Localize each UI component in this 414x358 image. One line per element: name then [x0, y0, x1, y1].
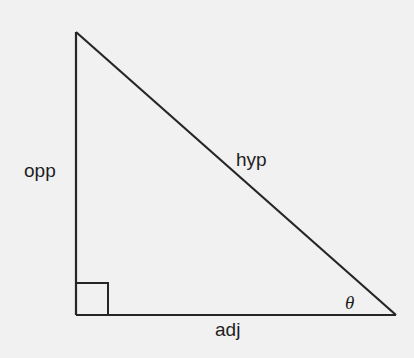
hypotenuse-label: hyp — [236, 150, 267, 169]
triangle-diagram: opp hyp adj θ — [0, 0, 414, 358]
hypotenuse-side — [76, 32, 396, 315]
angle-theta-label: θ — [345, 293, 354, 312]
adjacent-label: adj — [215, 320, 240, 339]
right-angle-marker — [76, 283, 108, 315]
opposite-label: opp — [24, 161, 56, 180]
